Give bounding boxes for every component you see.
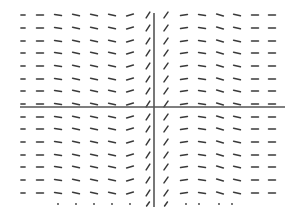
slope-segment [91,78,98,79]
slope-segment [146,152,150,158]
slope-segment [147,202,150,206]
slope-segment [127,14,134,16]
slope-segment [234,128,241,129]
slope-segment [73,103,80,104]
slope-segment [199,14,206,15]
slope-segment [146,126,150,132]
slope-segment [109,65,116,66]
slope-segment [127,65,134,67]
slope-segment [127,40,134,42]
slope-segment [234,27,241,28]
slope-segment [181,14,188,15]
slope-segment [199,192,206,193]
slope-segment [234,40,241,41]
slope-segment [146,63,150,69]
slope-segment [164,88,168,94]
slope-segment [234,65,241,66]
slope-segment [217,40,224,42]
slope-segment [109,90,116,91]
slope-segment [127,116,134,118]
slope-segment [146,50,150,56]
slope-segment [146,139,150,145]
slope-segment [217,192,224,194]
slope-segment [234,116,241,117]
slope-segment [199,166,206,167]
slope-segment [109,166,116,167]
slope-dot [231,203,233,205]
slope-segment [127,90,134,92]
slope-segment [91,14,98,15]
slope-dot [218,203,220,205]
slope-segment [181,90,188,91]
slope-segment [91,27,98,28]
slope-segment [234,166,241,167]
slope-segment [73,40,80,41]
slope-segment [146,25,150,31]
slope-segment [217,14,224,16]
slope-segment [146,114,150,120]
slope-segment [146,190,150,196]
slope-segment [91,90,98,91]
slope-segment [127,78,134,80]
slope-segment [73,14,80,15]
slope-segment [234,52,241,53]
slope-segment [127,128,134,130]
slope-segment [127,192,134,194]
slope-segment [164,164,168,170]
slope-segment [73,179,80,180]
slope-segment [199,128,206,129]
slope-dot [57,203,59,205]
slope-segment [91,128,98,129]
slope-segment [109,154,116,155]
slope-segment [181,141,188,142]
slope-segment [199,103,206,104]
slope-segment [127,52,134,54]
slope-segment [164,12,168,18]
slope-segment [146,38,150,44]
slope-segment [109,103,116,104]
slope-segment [217,78,224,80]
slope-segment [181,52,188,53]
slope-segment [91,52,98,53]
slope-segment [109,141,116,142]
slope-segment [217,65,224,67]
slope-segment [234,141,241,142]
slope-segment [55,78,62,79]
slope-dot [129,203,131,205]
slope-segment [55,90,62,91]
slope-segment [55,52,62,53]
slope-segment [73,141,80,142]
slope-segment [146,88,150,94]
slope-segment [164,126,168,132]
slope-segment [73,166,80,167]
slope-segment [234,154,241,155]
slope-segment [164,38,168,44]
slope-segment [55,179,62,180]
slope-segment [91,192,98,193]
slope-segment [55,65,62,66]
slope-segment [164,139,168,145]
slope-segment [234,192,241,193]
slope-segments [21,12,276,206]
slope-segment [164,190,168,196]
slope-segment [109,128,116,129]
slope-segment [181,103,188,104]
slope-segment [109,40,116,41]
slope-segment [55,166,62,167]
slope-segment [181,116,188,117]
slope-segment [199,78,206,79]
slope-dot [93,203,95,205]
slope-segment [234,179,241,180]
slope-segment [217,166,224,168]
slope-segment [181,65,188,66]
slope-segment [55,128,62,129]
slope-segment [127,103,134,105]
slope-segment [164,50,168,56]
slope-segment [109,179,116,180]
slope-segment [217,52,224,54]
slope-segment [73,192,80,193]
slope-segment [109,116,116,117]
slope-dot [111,203,113,205]
slope-segment [91,154,98,155]
slope-segment [91,65,98,66]
